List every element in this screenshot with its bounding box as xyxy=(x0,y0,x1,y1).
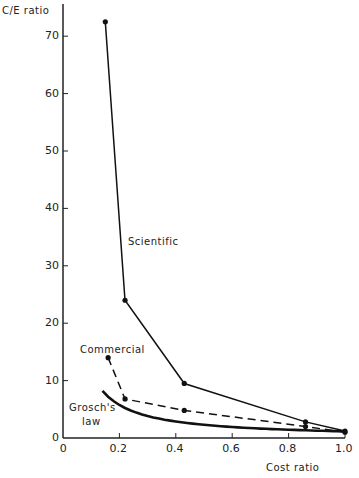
grosch-label-line1: Grosch's xyxy=(69,402,116,413)
data-point-marker xyxy=(182,381,187,386)
scientific-label: Scientific xyxy=(128,236,179,247)
y-tick-label: 40 xyxy=(45,201,59,214)
chart-plot xyxy=(0,0,359,478)
scientific-line xyxy=(105,22,345,431)
y-tick-label: 70 xyxy=(45,29,59,42)
data-point-marker xyxy=(303,424,308,429)
y-tick-label: 60 xyxy=(45,87,59,100)
x-tick-label: 0.4 xyxy=(166,442,184,455)
y-tick-label: 50 xyxy=(45,144,59,157)
grosch-s-law-line xyxy=(103,391,346,432)
grosch-label-line2: law xyxy=(82,416,101,427)
x-tick-label: 1.0 xyxy=(335,442,353,455)
x-tick-label: 0 xyxy=(60,442,67,455)
commercial-line xyxy=(108,358,345,433)
x-tick-label: 0.2 xyxy=(110,442,128,455)
commercial-label: Commercial xyxy=(80,344,145,355)
data-point-marker xyxy=(122,396,127,401)
y-tick-label: 0 xyxy=(52,431,59,444)
y-tick-label: 10 xyxy=(45,374,59,387)
data-point-marker xyxy=(182,408,187,413)
data-point-marker xyxy=(106,355,111,360)
data-point-marker xyxy=(303,419,308,424)
x-axis-label: Cost ratio xyxy=(266,462,319,473)
x-tick-label: 0.8 xyxy=(279,442,297,455)
x-tick-label: 0.6 xyxy=(222,442,240,455)
y-tick-label: 20 xyxy=(45,316,59,329)
data-point-marker xyxy=(122,298,127,303)
data-point-marker xyxy=(103,19,108,24)
y-axis-label: C/E ratio xyxy=(2,5,49,16)
y-tick-label: 30 xyxy=(45,259,59,272)
